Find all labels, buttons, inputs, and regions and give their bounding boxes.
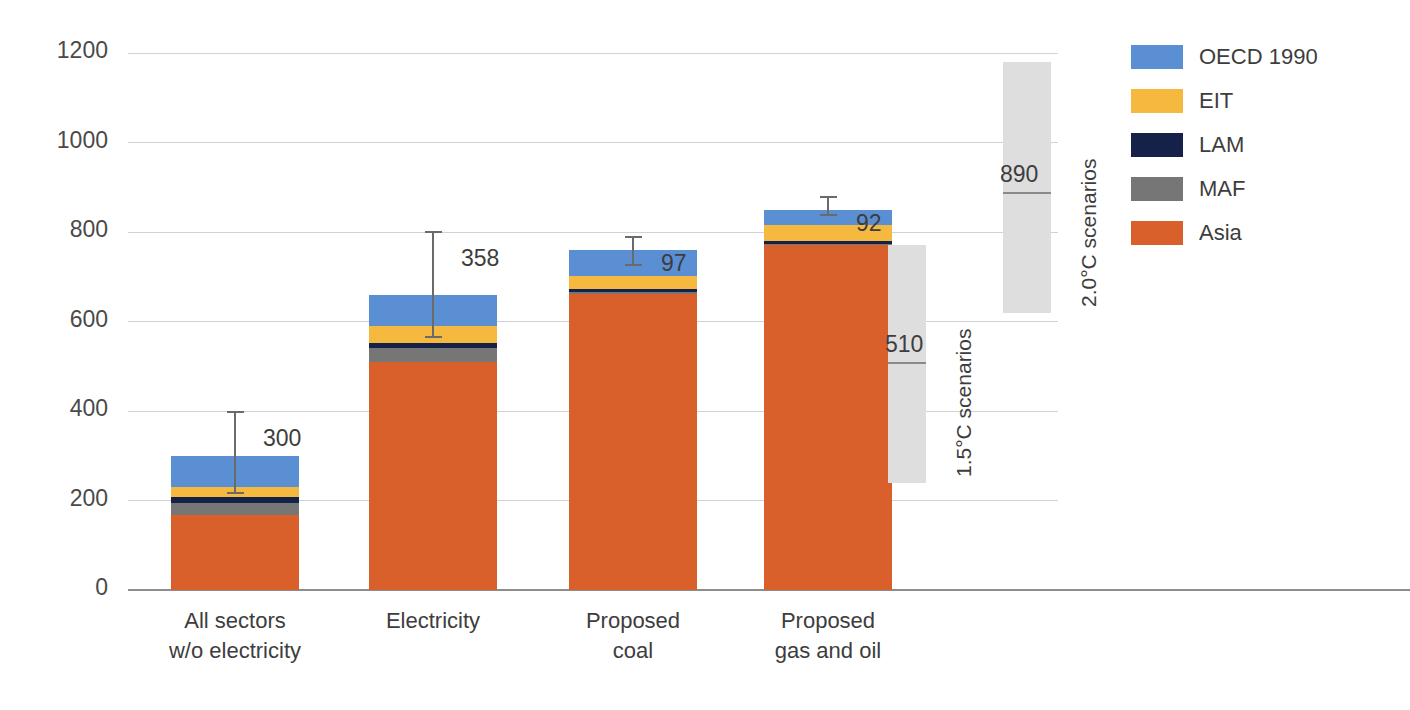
scenario-value-label-1: 510	[885, 331, 923, 358]
x-axis-label-line2: gas and oil	[698, 636, 958, 666]
legend-label: Asia	[1199, 220, 1242, 246]
bar-segment-asia[interactable]	[369, 362, 497, 590]
bar-segment-lam[interactable]	[764, 241, 892, 245]
x-axis-label-line2: w/o electricity	[105, 636, 365, 666]
legend-swatch-icon	[1131, 177, 1183, 201]
error-bar-stem	[632, 236, 634, 266]
bar-segment-maf[interactable]	[369, 348, 497, 361]
y-axis-tick-label-0: 0	[0, 574, 108, 601]
legend-item-maf[interactable]: MAF	[1131, 174, 1318, 204]
error-bar-cap-top	[227, 411, 244, 413]
legend-swatch-icon	[1131, 89, 1183, 113]
y-axis-tick-label-1000: 1000	[0, 127, 108, 154]
y-axis-tick-label-400: 400	[0, 395, 108, 422]
legend-swatch-icon	[1131, 221, 1183, 245]
bar-segment-lam[interactable]	[569, 289, 697, 292]
y-axis-tick-label-200: 200	[0, 485, 108, 512]
bar-segment-asia[interactable]	[764, 245, 892, 590]
scenario-median-line-1	[888, 362, 926, 364]
error-bar-1	[215, 411, 255, 494]
bar-segment-asia[interactable]	[171, 515, 299, 590]
error-bar-stem	[432, 231, 434, 338]
bar-segment-maf[interactable]	[171, 503, 299, 515]
legend-label: LAM	[1199, 132, 1244, 158]
plot-area: 0200400600800100012003003589792All secto…	[128, 53, 1058, 590]
gridline-1000	[128, 142, 1058, 143]
error-bar-3	[613, 236, 653, 266]
error-bar-cap-bottom	[425, 336, 442, 338]
bar-segment-maf[interactable]	[764, 244, 892, 245]
bar-3[interactable]	[569, 250, 697, 590]
scenario-axis-label-2: 2.0°C scenarios	[1077, 158, 1101, 306]
gridline-800	[128, 232, 1058, 233]
y-axis-tick-label-800: 800	[0, 216, 108, 243]
legend-swatch-icon	[1131, 45, 1183, 69]
bar-4[interactable]	[764, 210, 892, 590]
error-bar-cap-top	[625, 236, 642, 238]
error-bar-cap-bottom	[625, 264, 642, 266]
legend: OECD 1990EITLAMMAFAsia	[1131, 42, 1318, 262]
legend-item-eit[interactable]: EIT	[1131, 86, 1318, 116]
bar-segment-asia[interactable]	[569, 294, 697, 590]
legend-swatch-icon	[1131, 133, 1183, 157]
legend-item-lam[interactable]: LAM	[1131, 130, 1318, 160]
bar-segment-eit[interactable]	[569, 276, 697, 289]
error-bar-2	[413, 231, 453, 338]
scenario-value-label-2: 890	[1000, 161, 1038, 188]
error-bar-cap-top	[425, 231, 442, 233]
legend-item-oecd-1990[interactable]: OECD 1990	[1131, 42, 1318, 72]
legend-label: OECD 1990	[1199, 44, 1318, 70]
bar-2[interactable]	[369, 295, 497, 590]
error-bar-4	[808, 196, 848, 216]
error-bar-cap-bottom	[227, 492, 244, 494]
scenario-box-1	[888, 245, 926, 482]
legend-label: EIT	[1199, 88, 1233, 114]
scenario-axis-label-1: 1.5°C scenarios	[952, 328, 976, 476]
x-axis-label-4: Proposedgas and oil	[698, 606, 958, 666]
y-axis-tick-label-1200: 1200	[0, 37, 108, 64]
bar-segment-lam[interactable]	[369, 343, 497, 349]
x-axis-label-line1: Proposed	[698, 606, 958, 636]
scenario-median-line-2	[1003, 192, 1051, 194]
bar-value-label-4: 92	[856, 210, 882, 237]
bar-segment-maf[interactable]	[569, 292, 697, 294]
legend-item-asia[interactable]: Asia	[1131, 218, 1318, 248]
clipped-caption-fragment	[560, 0, 1080, 2]
error-bar-stem	[234, 411, 236, 494]
bar-segment-lam[interactable]	[171, 497, 299, 503]
gridline-1200	[128, 53, 1058, 54]
y-axis-tick-label-600: 600	[0, 306, 108, 333]
error-bar-cap-top	[820, 196, 837, 198]
error-bar-cap-bottom	[820, 214, 837, 216]
bar-value-label-2: 358	[461, 245, 499, 272]
bar-value-label-1: 300	[263, 425, 301, 452]
bar-value-label-3: 97	[661, 250, 687, 277]
legend-label: MAF	[1199, 176, 1245, 202]
